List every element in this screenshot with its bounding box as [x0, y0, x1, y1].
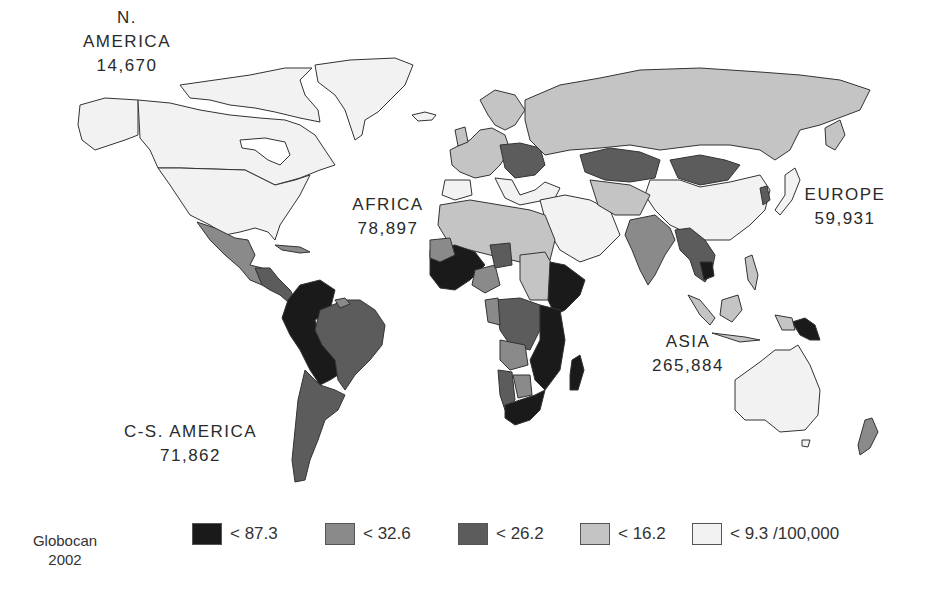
- source-name: Globocan: [30, 531, 100, 550]
- iceland-region: [412, 112, 436, 121]
- legend-swatch: [192, 523, 222, 545]
- label-asia: ASIA 265,884: [638, 330, 738, 378]
- legend-item-very-low: < 9.3 /100,000: [692, 523, 839, 545]
- region-name: N. AMERICA: [72, 6, 182, 54]
- map-legend: Globocan 2002 < 87.3 < 32.6 < 26.2 < 16.…: [0, 515, 926, 585]
- region-name: ASIA: [638, 330, 738, 354]
- region-value: 78,897: [338, 217, 438, 241]
- legend-swatch: [325, 523, 355, 545]
- region-name: EUROPE: [795, 183, 895, 207]
- gabon-region: [485, 298, 500, 325]
- madagascar-region: [570, 355, 584, 390]
- legend-swatch: [692, 523, 722, 545]
- legend-label: < 87.3: [230, 524, 278, 544]
- new-zealand-region: [858, 418, 878, 455]
- scandinavia-region: [480, 90, 525, 130]
- label-europe: EUROPE 59,931: [795, 183, 895, 231]
- iberia-region: [442, 180, 472, 200]
- kazakhstan-region: [580, 148, 660, 182]
- legend-item-high: < 32.6: [325, 523, 411, 545]
- legend-swatch: [458, 523, 488, 545]
- angola-region: [500, 340, 528, 370]
- botswana-region: [513, 375, 532, 398]
- philippines-region: [745, 255, 758, 290]
- region-value: 71,862: [108, 444, 273, 468]
- label-africa: AFRICA 78,897: [338, 193, 438, 241]
- region-name: C-S. AMERICA: [108, 420, 273, 444]
- legend-item-mid: < 26.2: [458, 523, 544, 545]
- uk-region: [455, 127, 468, 146]
- png-region: [792, 318, 820, 340]
- legend-label: < 32.6: [363, 524, 411, 544]
- legend-label: < 9.3 /100,000: [730, 524, 839, 544]
- label-cs-america: C-S. AMERICA 71,862: [108, 420, 273, 468]
- region-value: 59,931: [795, 207, 895, 231]
- nigeria-region: [472, 265, 500, 293]
- legend-label: < 26.2: [496, 524, 544, 544]
- legend-item-very-high: < 87.3: [192, 523, 278, 545]
- alaska-region: [78, 98, 138, 150]
- region-value: 14,670: [72, 54, 182, 78]
- tasmania-region: [802, 440, 810, 447]
- legend-source: Globocan 2002: [30, 531, 100, 569]
- kamchatka-region: [825, 120, 845, 150]
- legend-swatch: [580, 523, 610, 545]
- source-year: 2002: [30, 550, 100, 569]
- russia-region: [525, 68, 870, 160]
- legend-label: < 16.2: [618, 524, 666, 544]
- australia-region: [735, 345, 820, 432]
- label-north-america: N. AMERICA 14,670: [72, 6, 182, 78]
- caribbean-region: [275, 245, 310, 253]
- greenland-region: [315, 58, 413, 140]
- borneo-region: [720, 295, 742, 322]
- india-region: [625, 215, 675, 285]
- chad-region: [490, 243, 512, 268]
- sumatra-region: [688, 295, 715, 325]
- southern-cone-region: [292, 370, 345, 482]
- west-papua-region: [775, 315, 795, 330]
- horn-africa-region: [548, 262, 585, 315]
- region-value: 265,884: [638, 354, 738, 378]
- region-name: AFRICA: [338, 193, 438, 217]
- legend-item-low: < 16.2: [580, 523, 666, 545]
